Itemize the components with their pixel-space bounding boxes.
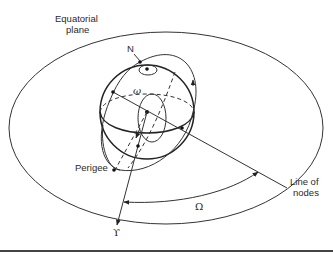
perigee-line [115,112,147,170]
north-label: N [127,43,134,54]
equator-crossing-dot [136,144,140,148]
equatorial-plane-ellipse [9,32,323,224]
vernal-equinox-label: ϒ [113,227,120,238]
node-dot-right [180,126,184,130]
sphere-equator-back [100,94,194,112]
equatorial-plane-label-2: plane [66,24,89,35]
north-pointer [134,54,140,61]
omega-label: ω [133,85,141,96]
orbital-elements-diagram: Equatorial plane N ω Perigee Line of nod… [0,0,333,254]
raan-arc [124,172,258,202]
omega-arc [138,94,166,142]
raan-label: Ω [195,201,203,212]
perigee-label: Perigee [75,162,108,173]
line-of-nodes-label-2: nodes [293,187,319,198]
node-dot-left [111,90,115,94]
equatorial-plane-label-1: Equatorial [55,13,98,24]
perigee-dot [112,168,116,172]
sphere-equator-front [100,112,194,133]
line-of-nodes-label-1: Line of [290,176,319,187]
north-pole-dot [145,67,149,71]
